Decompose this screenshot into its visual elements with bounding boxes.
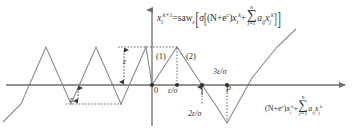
branch-label-2: (2) [186,52,196,61]
amplitude-label-upper: ε [123,58,126,66]
xaxis-coef-sup: c [282,104,284,109]
x-axis-label: (N+ec)xik+n∑j=1aijxjk [265,95,322,116]
xaxis-sum-var-sup: k [320,104,322,109]
formula-sum-coef-sub: ij [262,19,265,25]
xaxis-coef: (N+e [265,104,282,113]
formula-term-var-sup: k [238,12,241,18]
summation-symbol: n∑j=1 [247,5,257,27]
formula-term-var-sub: i [237,19,239,25]
xaxis-var-sup: k [291,104,293,109]
formula-lhs-sup: k+1 [163,12,173,18]
tick-label-origin: 0 [154,86,158,95]
sum-lower-limit: j=1 [247,21,257,26]
bracket-inner-open: [ [204,11,207,25]
xaxis-sum-coef-sub: ij [312,110,315,115]
formula-term-var: x [232,13,236,23]
amplitude-label-lower: ε [70,96,73,104]
tick-label-eps-over-sigma: ε/σ [168,87,177,95]
tick-label-3eps-over-sigma: 3ε/σ [213,68,226,76]
main-formula: xik+1=sawε[σ[(N+ec)xik+n∑j=1aijxjk]] [157,5,281,29]
xaxis-plus: + [294,104,299,113]
xaxis-sum-lower: j=1 [299,111,308,116]
formula-lhs-sub: i [161,19,163,25]
xaxis-sigma-glyph: ∑ [299,100,308,110]
bracket-inner-close: ] [274,11,277,25]
xaxis-var-sub: i [290,110,291,115]
bracket-outer-close: ] [277,10,280,29]
formula-plus: + [241,13,246,23]
xaxis-sum-var-sub: j [319,110,320,115]
formula-operator: saw [178,13,193,23]
sawtooth-function-figure: xik+1=sawε[σ[(N+ec)xik+n∑j=1aijxjk]] (N+… [0,0,358,130]
formula-coef-sup: c [227,12,230,18]
sawtooth-curve [3,29,296,123]
branch-label-1: (1) [156,52,166,61]
xaxis-summation-symbol: n∑j=1 [299,95,308,116]
marker-2eps-sigma [200,83,204,87]
formula-sum-var-sub: j [269,19,271,25]
formula-coef: (N+e [207,13,227,23]
point-label-P: P [226,86,231,94]
bracket-outer-open: [ [195,10,198,29]
tick-label-2eps-over-sigma: 2ε/σ [188,110,201,118]
